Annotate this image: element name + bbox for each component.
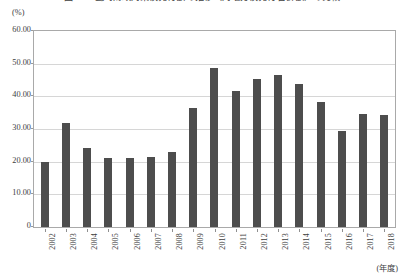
bar-slot [183,31,204,227]
bar[interactable] [232,91,240,227]
bar[interactable] [274,75,282,227]
x-axis-tick-mark [108,229,109,232]
x-axis-tick-mark [87,229,88,232]
x-axis-tick-label: 2007 [155,233,163,250]
x-axis-tick-label: 2012 [261,233,269,250]
x-axis-tick-label: 2018 [388,233,396,250]
y-axis-tick-label: 60.00 [0,26,31,34]
bar-slot [76,31,97,227]
bar-slot [331,31,352,227]
x-axis-tick-mark [45,229,46,232]
bar[interactable] [295,84,303,227]
y-axis-tick-label: 20.00 [0,157,31,165]
x-axis-tick-mark [66,229,67,232]
y-axis-tick-label: 30.00 [0,124,31,132]
x-axis-tick-label: 2008 [176,233,184,250]
bar-slot [310,31,331,227]
bar[interactable] [147,157,155,227]
x-axis-tick-mark [172,229,173,232]
bar[interactable] [62,123,70,227]
bar-slot [34,31,55,227]
x-axis-tick-label: 2005 [112,233,120,250]
bar[interactable] [317,102,325,227]
bar-slot [353,31,374,227]
x-axis-tick-mark [215,229,216,232]
x-axis-tick-label: 2010 [219,233,227,250]
x-axis-tick-label: 2016 [346,233,354,250]
bar-slot [246,31,267,227]
bar-slot [140,31,161,227]
x-axis-tick-label: 2006 [134,233,142,250]
bar[interactable] [189,108,197,227]
x-axis-tick-label: 2003 [70,233,78,250]
chart-figure: 図5-1 臨時財政対策債発行額の推移（対地方債発行合計額）の比較 (%) 010… [0,0,404,274]
x-axis-tick-label: 2011 [240,233,248,250]
bar-slot [225,31,246,227]
x-axis-tick-mark [363,229,364,232]
x-axis-tick-mark [321,229,322,232]
x-axis-tick-mark [299,229,300,232]
bar[interactable] [359,114,367,227]
bar[interactable] [210,68,218,227]
bar-slot [55,31,76,227]
x-axis-tick-label: 2004 [91,233,99,250]
x-axis-tick-label: 2015 [325,233,333,250]
x-axis-tick-mark [130,229,131,232]
x-axis-tick-mark [236,229,237,232]
x-axis-tick-mark [193,229,194,232]
y-axis-tick-label: 40.00 [0,91,31,99]
bar[interactable] [41,162,49,227]
bar-slot [374,31,395,227]
y-axis-tick-labels: 010.0020.0030.0040.0050.0060.00 [0,30,31,228]
bar[interactable] [380,115,388,227]
x-axis-tick-mark [257,229,258,232]
x-axis-tick-mark [278,229,279,232]
x-axis-tick-label: 2009 [197,233,205,250]
y-axis-unit-label: (%) [12,8,24,17]
x-axis-tick-mark [384,229,385,232]
y-axis-tick-label: 0 [0,222,31,230]
bar-slot [289,31,310,227]
x-axis-tick-label: 2014 [303,233,311,250]
bar[interactable] [168,152,176,227]
bar-series [34,31,395,227]
bar[interactable] [83,148,91,227]
bar[interactable] [104,158,112,227]
x-axis-tick-label: 2013 [282,233,290,250]
x-axis-title: (年度) [376,261,398,273]
bar[interactable] [253,79,261,227]
bar-slot [161,31,182,227]
y-axis-tick-label: 50.00 [0,59,31,67]
bar-slot [98,31,119,227]
x-axis-tick-label: 2017 [367,233,375,250]
chart-title: 図5-1 臨時財政対策債発行額の推移（対地方債発行合計額）の比較 [0,0,404,3]
bar-slot [268,31,289,227]
bar-slot [119,31,140,227]
bar[interactable] [338,131,346,227]
bar-slot [204,31,225,227]
bar[interactable] [126,158,134,227]
x-axis-tick-label: 2002 [49,233,57,250]
x-axis-tick-labels: 2002200320042005200620072008200920102011… [34,229,395,263]
x-axis-tick-mark [342,229,343,232]
x-axis-tick-mark [151,229,152,232]
y-axis-tick-label: 10.00 [0,189,31,197]
